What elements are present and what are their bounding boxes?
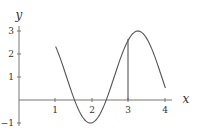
x-axis-label: x xyxy=(183,92,190,106)
function-curve xyxy=(56,31,166,123)
x-tick-label: 4 xyxy=(162,105,168,115)
y-tick-label: 1 xyxy=(8,72,14,82)
y-axis-label: y xyxy=(15,8,23,22)
x-tick-label: 1 xyxy=(52,105,58,115)
y-tick-label: 2 xyxy=(8,49,14,59)
chart: 1 2 3 4 3 2 1 −1 y x xyxy=(0,0,197,133)
y-tick-label: −1 xyxy=(1,118,14,128)
x-tick-label: 3 xyxy=(125,105,131,115)
x-tick-label: 2 xyxy=(89,105,95,115)
y-tick-label: 3 xyxy=(8,26,14,36)
